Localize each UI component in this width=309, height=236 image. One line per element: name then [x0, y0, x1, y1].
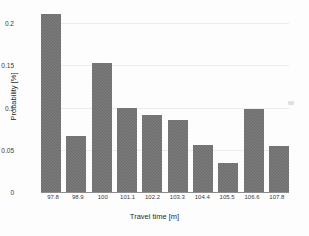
x-tick-label: 107.8: [265, 194, 289, 200]
bar: [168, 120, 188, 192]
x-tick-label: 102.2: [141, 194, 165, 200]
scan-artifact: [288, 101, 294, 105]
bar: [193, 145, 213, 192]
chart-figure: 0 0.05 0.1 0.15 0.2 97.898.9100101.1102.…: [0, 0, 309, 236]
x-axis-line: [41, 192, 289, 193]
bar: [41, 14, 61, 192]
x-tick-label: 98.9: [66, 194, 90, 200]
plot-area: [41, 8, 289, 192]
x-tick-label: 100: [91, 194, 115, 200]
x-tick-label: 101.1: [116, 194, 140, 200]
bar: [66, 136, 86, 192]
bar: [142, 115, 162, 192]
x-tick-label: 97.8: [41, 194, 65, 200]
y-tick-label: 0: [0, 189, 17, 196]
bar: [218, 163, 238, 192]
x-tick-label: 106.6: [240, 194, 264, 200]
x-tick-label: 103.3: [165, 194, 189, 200]
bar: [92, 63, 112, 192]
y-axis-title: Probability [%]: [9, 42, 18, 152]
x-tick-labels: 97.898.9100101.1102.2103.3104.4105.5106.…: [41, 194, 289, 200]
y-tick-label: 0.2: [0, 20, 17, 27]
x-tick-label: 105.5: [215, 194, 239, 200]
bar: [269, 146, 289, 192]
x-tick-label: 104.4: [190, 194, 214, 200]
bar: [244, 109, 264, 192]
x-axis-title: Travel time [m]: [0, 212, 309, 221]
bar: [117, 108, 137, 192]
bar-series: [41, 8, 289, 192]
